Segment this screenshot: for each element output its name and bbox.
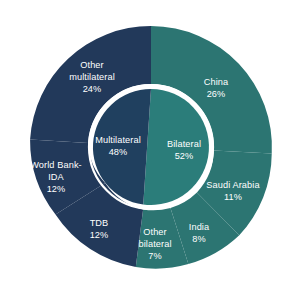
label-bilateral-name: Bilateral [167, 139, 201, 149]
label-world-bank-ida-pct: 12% [47, 184, 66, 194]
label-tdb-name: TDB [90, 218, 109, 228]
label-saudi-arabia-name: Saudi Arabia [206, 180, 260, 190]
label-other-bilateral-line2: bilateral [138, 239, 171, 249]
label-china-name: China [204, 77, 229, 87]
label-multilateral-name: Multilateral [95, 135, 141, 145]
label-bilateral-pct: 52% [175, 151, 194, 161]
label-world-bank-ida-line2: IDA [48, 172, 64, 182]
label-other-multilateral-pct: 24% [83, 84, 102, 94]
donut-svg: Other multilateral 24% World Bank- IDA 1… [0, 0, 290, 297]
label-other-multilateral-line2: multilateral [69, 72, 115, 82]
label-china-pct: 26% [207, 89, 226, 99]
label-tdb-pct: 12% [90, 230, 109, 240]
label-multilateral-pct: 48% [109, 147, 128, 157]
label-world-bank-ida-line1: World Bank- [30, 160, 81, 170]
label-other-bilateral-line1: Other [143, 227, 166, 237]
label-india-name: India [189, 222, 210, 232]
label-saudi-arabia-pct: 11% [224, 192, 242, 202]
label-other-bilateral-pct: 7% [148, 251, 161, 261]
nested-donut-chart: Other multilateral 24% World Bank- IDA 1… [0, 0, 290, 297]
label-india-pct: 8% [192, 234, 205, 244]
label-other-multilateral-line1: Other [80, 60, 103, 70]
